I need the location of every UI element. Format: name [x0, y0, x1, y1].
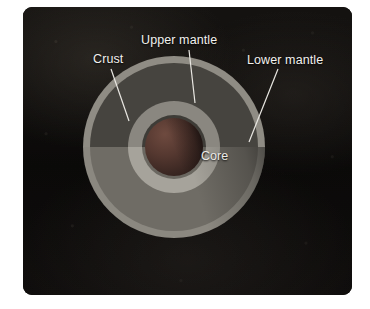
- label-core: Core: [201, 150, 228, 163]
- label-lower-mantle: Lower mantle: [247, 54, 323, 67]
- label-crust: Crust: [93, 53, 123, 66]
- core-shading: [145, 118, 203, 176]
- label-upper-mantle: Upper mantle: [141, 34, 217, 47]
- moon-cutaway-illustration: [83, 56, 265, 282]
- layer-core: [145, 118, 203, 176]
- figure-root: Crust Upper mantle Lower mantle Core: [0, 0, 370, 309]
- diagram-panel: Crust Upper mantle Lower mantle Core: [23, 7, 352, 295]
